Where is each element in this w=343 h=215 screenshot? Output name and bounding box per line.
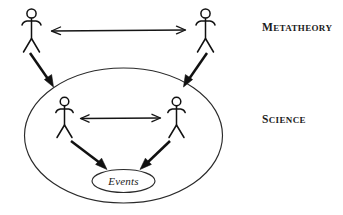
scientist-left-legs: [57, 125, 72, 138]
science-peer-arrow-shaft: [81, 118, 160, 119]
metatheorist-left-figure: [22, 9, 41, 52]
metatheory-to-science-arrow-left-shaft: [30, 53, 48, 79]
metatheory-caption-initial: M: [262, 21, 273, 33]
scientist-right-to-events-arrow-shaft: [147, 141, 170, 163]
scientist-left-head: [60, 97, 69, 106]
metatheorist-left-head: [27, 9, 36, 18]
metatheorist-right-legs: [198, 39, 214, 53]
scientist-right-to-events-arrow: [140, 141, 170, 170]
scientist-right-head: [172, 97, 181, 106]
science-caption: SCIENCE: [262, 113, 306, 125]
scientist-left-to-events-arrow-shaft: [71, 141, 100, 163]
science-peer-arrow: [81, 114, 161, 122]
metatheory-to-science-arrow-right: [184, 53, 208, 87]
metatheorist-right-figure: [196, 9, 215, 52]
science-caption-initial: S: [262, 113, 269, 125]
events-label: Events: [107, 175, 139, 187]
metatheorist-left-legs: [24, 39, 40, 53]
metatheory-to-science-arrow-left: [30, 53, 54, 87]
metatheory-caption-rest: ETATHEORY: [273, 23, 332, 33]
metatheory-peer-arrow: [52, 26, 186, 34]
scientist-left-figure: [56, 97, 73, 137]
scientist-right-figure: [168, 97, 185, 137]
science-caption-rest: CIENCE: [269, 115, 306, 125]
metatheorist-right-head: [201, 9, 210, 18]
scientist-right-legs: [169, 125, 184, 138]
scientist-left-to-events-arrow: [71, 141, 107, 170]
metatheory-to-science-arrow-right-shaft: [189, 53, 207, 79]
diagram-illustration: Events METATHEORY SCIENCE: [0, 0, 343, 215]
metatheory-peer-arrow-shaft: [52, 30, 185, 31]
diagram-canvas: Events METATHEORY SCIENCE: [0, 0, 343, 215]
metatheory-caption: METATHEORY: [262, 21, 332, 33]
